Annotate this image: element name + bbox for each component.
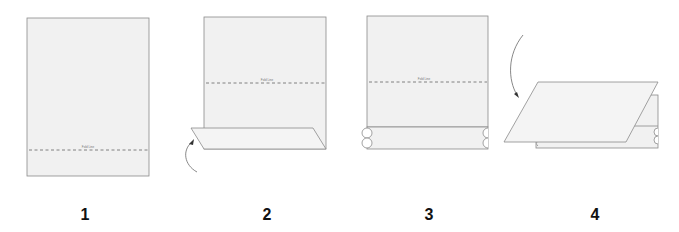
- paper-sheet: [27, 18, 149, 176]
- fold-line-label: Fold Line: [418, 77, 431, 81]
- step-4: 4: [504, 35, 658, 223]
- folding-diagram: Fold Line 1 Fold Line 2 Fold Line 3 4: [0, 0, 679, 232]
- step-1: Fold Line 1: [27, 18, 149, 223]
- step-number-4: 4: [591, 206, 600, 223]
- paper-sheet: [367, 16, 488, 127]
- step-number-1: 1: [81, 206, 90, 223]
- fold-line-label: Fold Line: [261, 78, 274, 82]
- fold-line-label: Fold Line: [82, 145, 95, 149]
- roll-left-bottom: [362, 138, 372, 148]
- step-number-2: 2: [263, 206, 272, 223]
- folded-flap: [191, 128, 326, 149]
- step-number-3: 3: [425, 206, 434, 223]
- fold-up-arrow: [186, 142, 197, 172]
- fold-down-arrow: [511, 35, 523, 95]
- rolled-edge: [367, 127, 488, 149]
- arrowhead-icon: [189, 139, 194, 145]
- arrowhead-icon: [514, 92, 519, 98]
- step-3: Fold Line 3: [362, 16, 488, 223]
- roll-left-top: [362, 128, 372, 138]
- step-2: Fold Line 2: [186, 17, 326, 223]
